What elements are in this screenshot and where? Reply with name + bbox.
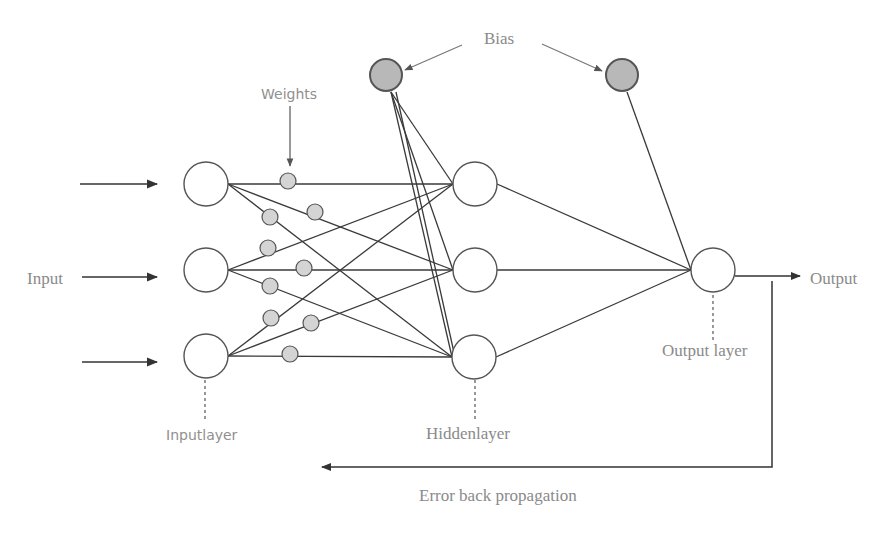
weight-node <box>280 173 296 189</box>
input-label: Input <box>27 270 63 287</box>
input-hidden-connections <box>228 184 453 357</box>
output-node <box>691 248 735 292</box>
hidden-node-2 <box>453 248 497 292</box>
hidden-output-connections <box>496 92 691 357</box>
error-back-propagation-label: Error back propagation <box>419 487 577 504</box>
bias-pointer-arrow-2 <box>542 44 602 71</box>
weight-node <box>263 310 279 326</box>
weights-label: Weights <box>261 87 317 101</box>
input-layer-label: Inputlayer <box>166 428 237 442</box>
weight-nodes <box>260 173 323 362</box>
hidden-layer-label: Hiddenlayer <box>426 425 510 442</box>
weight-node <box>303 315 319 331</box>
bias-node-2 <box>606 59 638 91</box>
hidden-node-3 <box>452 335 496 379</box>
input-node-3 <box>184 334 228 378</box>
weight-node <box>262 209 278 225</box>
bias-label: Bias <box>484 30 514 47</box>
input-node-1 <box>184 162 228 206</box>
input-arrows <box>80 184 157 362</box>
weight-node <box>282 346 298 362</box>
weight-node <box>307 204 323 220</box>
weight-node <box>262 278 278 294</box>
weight-node <box>260 240 276 256</box>
weight-node <box>296 260 312 276</box>
output-layer-label: Output layer <box>662 342 747 359</box>
output-label: Output <box>810 270 857 287</box>
input-node-2 <box>184 248 228 292</box>
bias-pointer-arrow-1 <box>405 45 462 70</box>
network-diagram <box>0 0 890 534</box>
bias-node-1 <box>370 59 402 91</box>
hidden-node-1 <box>453 162 497 206</box>
